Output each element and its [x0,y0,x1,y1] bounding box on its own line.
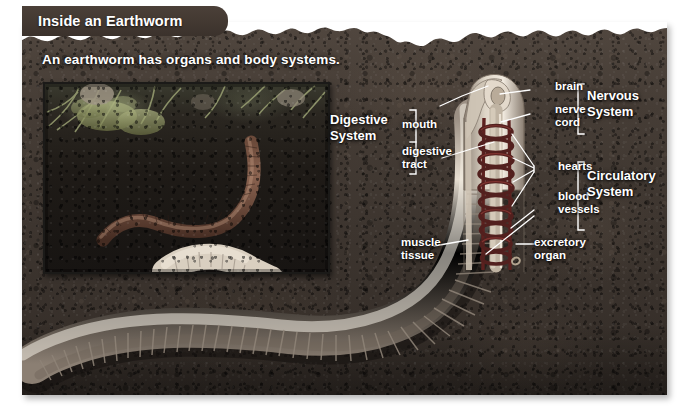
label-nerve-cord: nerve cord [555,103,586,129]
label-brain: brain [555,80,583,93]
figure-title-bar: Inside an Earthworm [22,6,228,36]
muscle-tissue-layer [468,122,469,270]
label-digestive-tract: digestive tract [402,145,452,171]
label-mouth: mouth [402,118,437,131]
earthworm-diagram-figure: Inside an Earthworm An earthworm has org… [0,0,690,419]
brain-ganglion [491,87,505,105]
figure-subtitle: An earthworm has organs and body systems… [42,52,340,67]
label-muscle-tissue: muscle tissue [401,236,441,262]
label-excretory-organ: excretory organ [534,236,586,262]
label-nervous-system: Nervous System [587,88,639,119]
excretory-organ [512,258,520,265]
label-circulatory-system: Circulatory System [587,168,656,199]
label-digestive-system: Digestive System [330,112,388,143]
page-title: Inside an Earthworm [22,13,183,29]
